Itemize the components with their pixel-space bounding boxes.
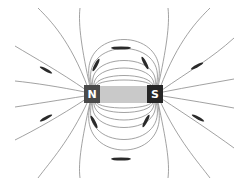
south-fan-lines <box>158 8 234 178</box>
lower-loops <box>89 102 160 150</box>
arrow-icon <box>191 113 205 122</box>
field-line <box>94 68 154 86</box>
arrow-icon <box>89 115 98 129</box>
south-pole-label: S <box>151 88 159 101</box>
field-line <box>38 101 88 178</box>
field-line <box>163 79 234 92</box>
field-line <box>95 76 153 87</box>
field-line <box>160 8 210 88</box>
arrow-icon <box>190 61 204 70</box>
magnet-body <box>100 86 147 103</box>
arrow-icon <box>39 113 53 122</box>
bar-magnet: N S <box>84 85 163 103</box>
arrow-icon <box>39 65 53 74</box>
arrow-icon <box>141 114 150 128</box>
arrow-icon <box>111 46 131 49</box>
north-fan-lines <box>15 8 90 178</box>
field-line <box>160 101 210 178</box>
field-line <box>89 102 160 150</box>
field-line <box>95 102 153 113</box>
field-line <box>94 102 154 120</box>
field-line <box>15 96 85 107</box>
field-line <box>96 80 152 86</box>
north-pole-label: N <box>87 88 96 101</box>
field-line <box>38 8 88 88</box>
bar-magnet-field-diagram: N S <box>0 0 252 188</box>
arrow-icon <box>140 56 149 70</box>
field-line <box>15 46 86 90</box>
arrow-icon <box>111 157 131 160</box>
